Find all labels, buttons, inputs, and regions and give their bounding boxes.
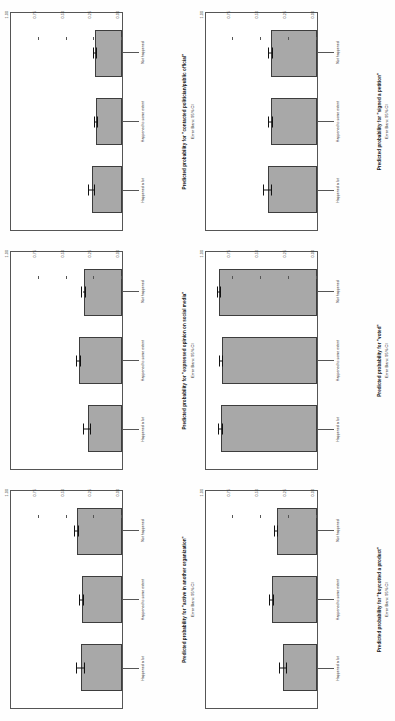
axis-title: Predicted probability for "boycotted a p… <box>377 490 383 709</box>
panel-grid: 0.000.250.500.751.00Happened a lotHappen… <box>0 0 395 721</box>
x-axis-category: Happened to some extent <box>318 337 376 385</box>
x-axis-tick-label: Not happened <box>336 41 340 64</box>
error-bar-cap-upper <box>93 48 94 59</box>
error-bar-cap-lower <box>96 48 97 59</box>
x-axis-tick-mark <box>318 291 334 292</box>
x-axis-tick-mark <box>123 668 139 669</box>
error-bar-cap-lower <box>78 526 79 537</box>
y-axis-tick-label: 1.00 <box>200 489 204 496</box>
error-bar-cap-upper <box>217 287 218 298</box>
x-axis-category: Happened a lot <box>123 645 181 693</box>
bar-group <box>206 13 317 230</box>
bar-column <box>11 337 122 384</box>
error-bar-caption: Error Bars: 95% CI <box>384 12 389 231</box>
error-bar-cap-upper <box>81 287 82 298</box>
bar-group <box>11 252 122 469</box>
axis-title: Predicted probability for "expressed opi… <box>182 251 188 470</box>
bar-column <box>206 98 317 145</box>
x-axis-tick-mark <box>318 530 334 531</box>
bar-column <box>11 30 122 77</box>
x-axis: Happened a lotHappened to some extentNot… <box>123 490 181 709</box>
x-axis-tick-label: Happened to some extent <box>141 101 145 142</box>
x-axis-category: Not happened <box>123 507 181 555</box>
bar <box>88 405 122 452</box>
bar <box>222 337 317 384</box>
axis-title: Predicted probability for "voted" <box>377 251 383 470</box>
x-axis-tick-label: Happened a lot <box>336 178 340 202</box>
x-axis-category: Not happened <box>318 29 376 77</box>
x-axis-category: Happened a lot <box>318 645 376 693</box>
error-bar-cap-lower <box>83 594 84 605</box>
plot-wrapper: 0.000.250.500.751.00Happened a lotHappen… <box>10 490 181 709</box>
x-axis-tick-label: Not happened <box>336 519 340 542</box>
error-bar-cap-upper <box>263 184 264 195</box>
plot-wrapper: 0.000.250.500.751.00Happened a lotHappen… <box>10 12 181 231</box>
x-axis-tick-mark <box>123 291 139 292</box>
chart-panel: 0.000.250.500.751.00Happened a lotHappen… <box>4 241 199 480</box>
y-axis-tick-label: 1.00 <box>5 11 9 18</box>
bar <box>92 166 122 213</box>
error-bar-cap-lower <box>222 423 223 434</box>
x-axis-category: Not happened <box>123 29 181 77</box>
x-axis-category: Happened a lot <box>318 167 376 215</box>
axis-title: Predicted probability for "contacted pol… <box>182 12 188 231</box>
error-bar-caption: Error Bars: 95% CI <box>190 490 195 709</box>
bar <box>271 30 317 77</box>
x-axis-tick-label: Happened to some extent <box>336 101 340 142</box>
plot-wrapper: 0.000.250.500.751.00Happened a lotHappen… <box>205 12 376 231</box>
error-bar-cap-upper <box>76 355 77 366</box>
error-bar-caption: Error Bars: 95% CI <box>190 12 195 231</box>
x-axis-tick-label: Happened to some extent <box>141 340 145 381</box>
bar-column <box>206 644 317 691</box>
error-bar-cap-lower <box>85 287 86 298</box>
error-bar-cap-lower <box>272 48 273 59</box>
error-bar-cap-lower <box>80 355 81 366</box>
bar <box>219 269 316 316</box>
bar <box>271 98 317 145</box>
x-axis-tick-mark <box>318 599 334 600</box>
x-axis-tick-mark <box>123 599 139 600</box>
bar-column <box>11 405 122 452</box>
bar <box>81 644 122 691</box>
error-bar-cap-lower <box>222 355 223 366</box>
plot-wrapper: 0.000.250.500.751.00Happened a lotHappen… <box>205 251 376 470</box>
error-bar-cap-lower <box>90 423 91 434</box>
chart-panel: 0.000.250.500.751.00Happened a lotHappen… <box>199 241 394 480</box>
error-bar-cap-lower <box>220 287 221 298</box>
y-axis-tick-label: 1.00 <box>5 250 9 257</box>
bar-column <box>206 166 317 213</box>
bar <box>221 405 316 452</box>
x-axis-tick-mark <box>123 360 139 361</box>
bar <box>272 576 316 623</box>
y-axis-tick-label: 1.00 <box>200 11 204 18</box>
x-axis-tick-label: Happened a lot <box>141 178 145 202</box>
x-axis-tick-mark <box>318 121 334 122</box>
x-axis-tick-label: Not happened <box>336 280 340 303</box>
bar <box>277 508 317 555</box>
x-axis-category: Happened to some extent <box>123 98 181 146</box>
error-bar-cap-upper <box>94 116 95 127</box>
error-bar-cap-upper <box>83 423 84 434</box>
bar <box>268 166 317 213</box>
x-axis-category: Happened a lot <box>123 406 181 454</box>
bar <box>95 30 122 77</box>
rotated-figure-container: 0.000.250.500.751.00Happened a lotHappen… <box>0 0 395 721</box>
axis-title: Predicted probability for "signed a peti… <box>377 12 383 231</box>
plot-area: 0.000.250.500.751.00 <box>205 12 318 231</box>
plot-area: 0.000.250.500.751.00 <box>10 490 123 709</box>
x-axis-tick-label: Happened to some extent <box>336 579 340 620</box>
error-bar-caption: Error Bars: 95% CI <box>384 490 389 709</box>
x-axis-category: Happened a lot <box>123 167 181 215</box>
bar <box>96 98 122 145</box>
bar-column <box>206 337 317 384</box>
bar <box>84 269 122 316</box>
error-bar-cap-upper <box>279 662 280 673</box>
x-axis-tick-mark <box>318 360 334 361</box>
error-bar-cap-lower <box>271 184 272 195</box>
x-axis-category: Happened to some extent <box>318 98 376 146</box>
figure-page: 0.000.250.500.751.00Happened a lotHappen… <box>0 0 395 721</box>
x-axis-tick-mark <box>318 429 334 430</box>
error-bar-cap-upper <box>274 526 275 537</box>
error-bar-cap-lower <box>277 526 278 537</box>
error-bar-caption: Error Bars: 95% CI <box>190 251 195 470</box>
